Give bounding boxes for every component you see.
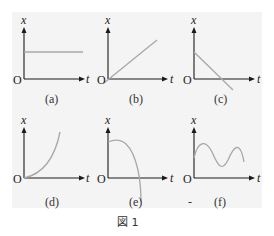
- panel-label-b: (b): [129, 92, 143, 106]
- svg-text:t: t: [257, 72, 261, 86]
- arrow-up-icon: [22, 27, 27, 33]
- arrow-right-icon: [249, 176, 255, 181]
- svg-text:t: t: [170, 72, 174, 86]
- svg-text:x: x: [104, 113, 111, 127]
- arrow-right-icon: [79, 77, 85, 82]
- graph-e-curve: [108, 140, 141, 202]
- panel-label-e: (e): [129, 195, 142, 209]
- x-label-a: x: [20, 13, 27, 27]
- graph-b-line: [104, 40, 157, 83]
- svg-text:O: O: [183, 172, 192, 186]
- svg-text:x: x: [20, 113, 27, 127]
- panel-label-a: (a): [45, 92, 58, 106]
- arrow-up-icon: [106, 27, 111, 33]
- arrow-right-icon: [249, 77, 255, 82]
- panel-d: x t O (d): [13, 113, 90, 209]
- graphs-canvas: x t O (a) x t O (b) x t O (c) x t O: [0, 0, 274, 236]
- graph-f-wave: [194, 144, 244, 167]
- svg-text:x: x: [190, 113, 197, 127]
- arrow-up-icon: [192, 27, 197, 33]
- panel-label-d: (d): [45, 195, 59, 209]
- svg-text:O: O: [97, 172, 106, 186]
- figure-caption: 図 1: [117, 213, 139, 229]
- arrow-right-icon: [79, 176, 85, 181]
- arrow-right-icon: [162, 77, 168, 82]
- svg-text:t: t: [257, 171, 261, 185]
- arrow-up-icon: [106, 127, 111, 133]
- svg-text:t: t: [170, 171, 174, 185]
- svg-text:O: O: [13, 172, 22, 186]
- svg-text:x: x: [190, 13, 197, 27]
- graph-c-line: [194, 52, 233, 90]
- t-label-a: t: [86, 72, 90, 86]
- panel-e: x t O (e): [97, 113, 174, 209]
- panel-c: x t O (c): [183, 13, 261, 106]
- origin-label-a: O: [13, 73, 22, 87]
- panel-label-f: (f): [214, 195, 226, 209]
- svg-text:O: O: [97, 73, 106, 87]
- arrow-up-icon: [192, 127, 197, 133]
- svg-text:O: O: [183, 73, 192, 87]
- panel-f: x t O (f) -: [183, 113, 261, 209]
- panel-b: x t O (b): [97, 13, 174, 106]
- panel-label-c: (c): [214, 92, 227, 106]
- stray-mark: -: [188, 195, 192, 209]
- svg-text:x: x: [104, 13, 111, 27]
- arrow-up-icon: [22, 127, 27, 133]
- arrow-right-icon: [162, 176, 168, 181]
- panel-a: x t O (a): [13, 13, 90, 106]
- graph-d-curve: [24, 132, 60, 178]
- svg-text:t: t: [86, 171, 90, 185]
